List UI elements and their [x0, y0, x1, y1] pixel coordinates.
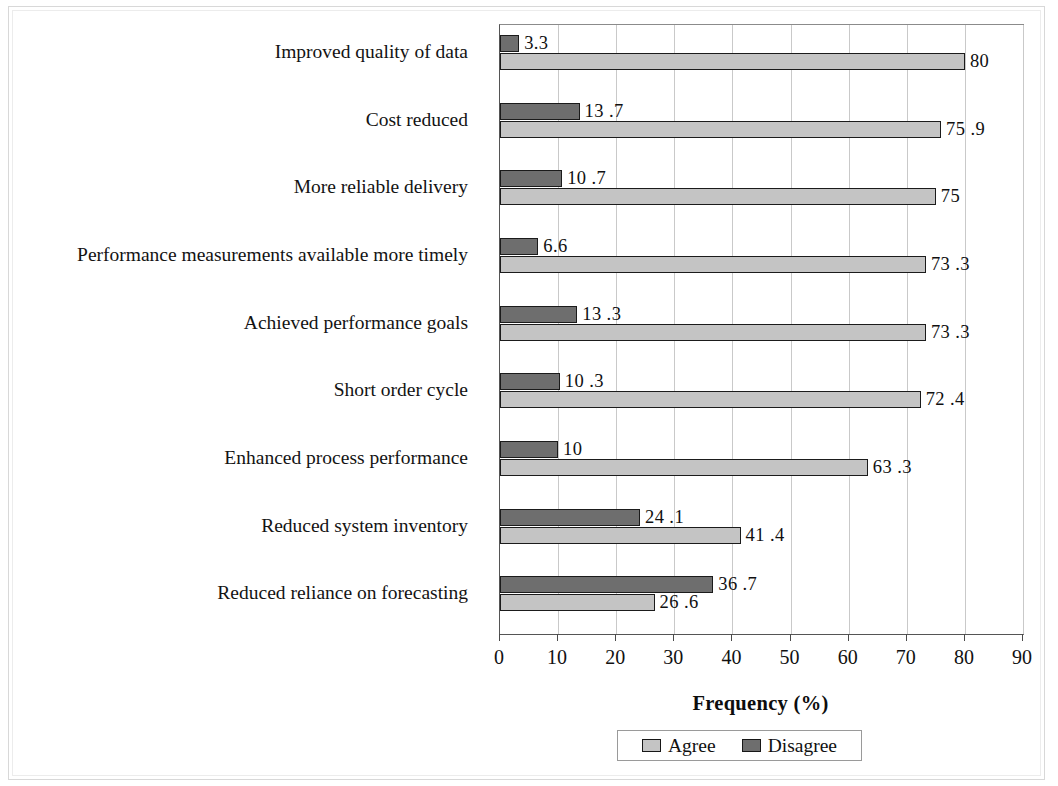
bar-agree[interactable]	[500, 459, 868, 476]
x-axis-tick	[1022, 634, 1023, 641]
legend-swatch-agree-icon	[642, 739, 661, 752]
bar-agree[interactable]	[500, 527, 741, 544]
bar-value-disagree: 36 .7	[718, 576, 757, 593]
x-axis-tick-label: 30	[653, 645, 693, 669]
bar-group: 10 .372 .4	[500, 373, 1023, 408]
x-axis-tick-label: 80	[944, 645, 984, 669]
x-axis-tick-label: 70	[886, 645, 926, 669]
bar-value-disagree: 10	[563, 441, 582, 458]
bar-group: 24 .141 .4	[500, 509, 1023, 544]
x-axis-tick-label: 20	[595, 645, 635, 669]
category-label: Achieved performance goals	[0, 312, 468, 334]
bar-disagree[interactable]	[500, 35, 519, 52]
x-axis-tick	[557, 634, 558, 641]
bar-agree[interactable]	[500, 324, 926, 341]
bar-value-agree: 63 .3	[873, 459, 912, 476]
x-axis-tick-label: 50	[770, 645, 810, 669]
bar-value-agree: 75 .9	[946, 121, 985, 138]
bar-value-agree: 72 .4	[926, 391, 965, 408]
bar-value-agree: 80	[970, 53, 989, 70]
bar-agree[interactable]	[500, 188, 936, 205]
category-label: More reliable delivery	[0, 176, 468, 198]
bar-agree[interactable]	[500, 391, 921, 408]
legend-label-agree: Agree	[668, 736, 716, 756]
category-label: Improved quality of data	[0, 41, 468, 63]
bar-group: 3.380	[500, 35, 1023, 70]
category-label: Short order cycle	[0, 379, 468, 401]
bar-group: 6.673 .3	[500, 238, 1023, 273]
bar-disagree[interactable]	[500, 576, 713, 593]
bar-value-disagree: 13 .7	[585, 103, 624, 120]
bar-disagree[interactable]	[500, 306, 577, 323]
bar-value-disagree: 3.3	[524, 35, 548, 52]
bar-disagree[interactable]	[500, 509, 640, 526]
bar-agree[interactable]	[500, 256, 926, 273]
bar-value-disagree: 6.6	[543, 238, 567, 255]
category-label: Performance measurements available more …	[0, 244, 468, 266]
bar-value-agree: 26 .6	[660, 594, 699, 611]
chart-legend: Agree Disagree	[617, 730, 862, 761]
x-axis-tick	[673, 634, 674, 641]
x-axis-tick-label: 90	[1002, 645, 1042, 669]
category-label: Reduced system inventory	[0, 515, 468, 537]
x-axis-tick	[790, 634, 791, 641]
bar-disagree[interactable]	[500, 170, 562, 187]
bar-group: 13 .775 .9	[500, 103, 1023, 138]
bar-group: 13 .373 .3	[500, 306, 1023, 341]
x-axis-tick-label: 0	[479, 645, 519, 669]
bar-value-agree: 41 .4	[746, 527, 785, 544]
bar-group: 10 .775	[500, 170, 1023, 205]
chart-page: Improved quality of dataCost reducedMore…	[0, 0, 1058, 786]
bar-value-disagree: 10 .7	[567, 170, 606, 187]
x-axis-tick	[499, 634, 500, 641]
category-axis-labels: Improved quality of dataCost reducedMore…	[0, 24, 492, 633]
category-label: Reduced reliance on forecasting	[0, 582, 468, 604]
bar-disagree[interactable]	[500, 441, 558, 458]
x-axis-title: Frequency (%)	[499, 692, 1022, 715]
category-label: Enhanced process performance	[0, 447, 468, 469]
x-axis-tick	[848, 634, 849, 641]
legend-label-disagree: Disagree	[768, 736, 837, 756]
gridline	[1023, 25, 1024, 634]
x-axis-tick	[615, 634, 616, 641]
bar-agree[interactable]	[500, 594, 655, 611]
bar-value-disagree: 13 .3	[582, 306, 621, 323]
bar-value-disagree: 24 .1	[645, 509, 684, 526]
bar-disagree[interactable]	[500, 238, 538, 255]
plot-area: 3.38013 .775 .910 .7756.673 .313 .373 .3…	[499, 24, 1024, 635]
bar-agree[interactable]	[500, 121, 941, 138]
legend-swatch-disagree-icon	[742, 739, 761, 752]
category-label: Cost reduced	[0, 109, 468, 131]
legend-entry-agree: Agree	[642, 736, 716, 756]
bar-disagree[interactable]	[500, 373, 560, 390]
x-axis-tick	[964, 634, 965, 641]
bar-value-agree: 73 .3	[931, 324, 970, 341]
bar-disagree[interactable]	[500, 103, 580, 120]
bar-agree[interactable]	[500, 53, 965, 70]
bar-group: 1063 .3	[500, 441, 1023, 476]
x-axis-tick-label: 10	[537, 645, 577, 669]
x-axis-tick	[906, 634, 907, 641]
bar-value-disagree: 10 .3	[565, 373, 604, 390]
bar-value-agree: 73 .3	[931, 256, 970, 273]
bar-value-agree: 75	[941, 188, 960, 205]
x-axis-tick	[731, 634, 732, 641]
x-axis-tick-label: 40	[711, 645, 751, 669]
bar-group: 36 .726 .6	[500, 576, 1023, 611]
legend-entry-disagree: Disagree	[742, 736, 837, 756]
x-axis-tick-label: 60	[828, 645, 868, 669]
